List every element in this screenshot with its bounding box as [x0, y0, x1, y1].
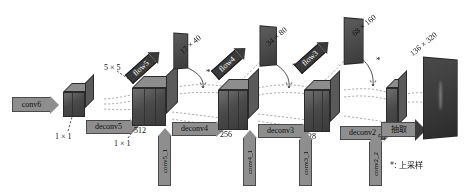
upsample-star-3: *	[376, 56, 381, 65]
feature-block-deconv3	[304, 90, 330, 132]
channels-label-deconv4: 256	[220, 131, 232, 139]
legend-upsample: *: 上采样	[390, 162, 423, 170]
arrow-conv5-1: conv5_1	[158, 128, 171, 186]
arrow-conv2-2-label: conv2_2	[372, 151, 380, 175]
arrow-extract-label: 抽取	[389, 126, 409, 134]
arrow-conv3-1-label: conv3_1	[302, 150, 310, 174]
arrow-deconv4-label: deconv4	[179, 125, 210, 133]
output-plane-blob	[439, 81, 442, 111]
upsample-star-5: *	[206, 68, 211, 77]
output-plane	[423, 56, 458, 139]
network-diagram: conv6 1 × 1 deconv5 5 × 5 512 1 × 1	[0, 0, 469, 192]
arrow-conv2-2: conv2_2	[369, 134, 382, 186]
arrow-deconv3-label: deconv3	[265, 127, 296, 135]
arrow-conv3-1: conv3_1	[299, 132, 312, 186]
arrow-conv4-1: conv4_1	[243, 130, 256, 186]
arrow-conv4-1-label: conv4_1	[246, 149, 254, 173]
arrow-extract: 抽取	[381, 122, 426, 137]
arrow-conv5-1-label: conv5_1	[161, 148, 169, 172]
feature-block-deconv4	[218, 90, 248, 130]
